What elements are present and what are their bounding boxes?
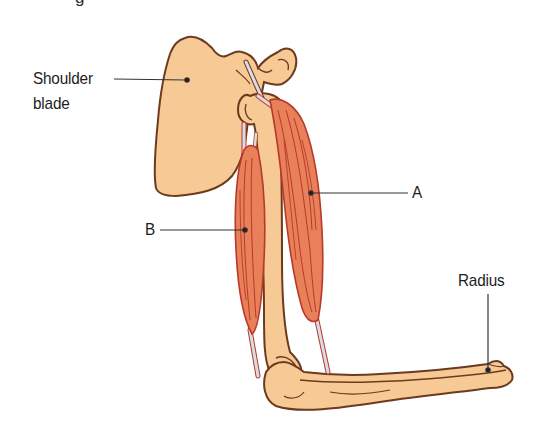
label-radius: Radius (458, 271, 505, 291)
arm-diagram (0, 0, 542, 439)
label-shoulder-blade-line2: blade (33, 94, 70, 114)
label-muscle-b: B (145, 220, 155, 240)
label-muscle-a: A (412, 183, 422, 203)
muscle-b (235, 146, 264, 335)
label-shoulder-blade-line1: Shoulder (33, 69, 93, 89)
